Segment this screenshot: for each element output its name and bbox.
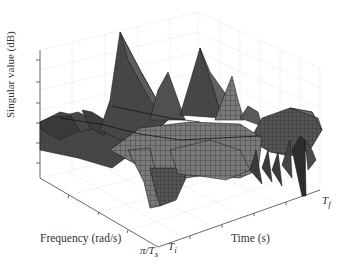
- pi-over-t: π/T: [140, 244, 155, 256]
- z-axis-label: Singular value (dB): [4, 31, 16, 118]
- time-start-tick-label: Ti: [168, 240, 177, 255]
- surface-plot: [0, 0, 350, 267]
- time-end-tick-label: Tf: [322, 194, 331, 209]
- subscript-s: s: [155, 249, 159, 259]
- time-axis-label: Time (s): [231, 232, 270, 244]
- frequency-end-tick-label: π/Ts: [140, 244, 158, 259]
- subscript-i: i: [174, 245, 177, 255]
- frequency-axis-label: Frequency (rad/s): [40, 232, 121, 244]
- subscript-f: f: [328, 199, 331, 209]
- surface: [40, 32, 322, 208]
